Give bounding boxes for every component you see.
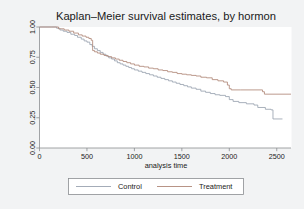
x-tick-label: 0 xyxy=(38,152,42,161)
legend-label-treatment: Treatment xyxy=(199,182,232,191)
legend-label-control: Control xyxy=(118,182,142,191)
y-tick-label: 0.75 xyxy=(28,50,37,64)
y-tick-label: 0.00 xyxy=(28,141,37,155)
y-tick-label: 0.50 xyxy=(28,81,37,95)
chart-figure: Kaplan–Meier survival estimates, by horm… xyxy=(0,0,304,209)
y-tick-label: 1.00 xyxy=(28,20,37,34)
x-tick-label: 1000 xyxy=(126,152,142,161)
x-tick-label: 2000 xyxy=(221,152,237,161)
chart-legend: Control Treatment xyxy=(69,179,244,195)
plot-area-background xyxy=(40,27,292,148)
y-tick-label: 0.25 xyxy=(28,111,37,125)
chart-title: Kaplan–Meier survival estimates, by horm… xyxy=(56,10,276,22)
kaplan-meier-survival-plot: Kaplan–Meier survival estimates, by horm… xyxy=(0,0,304,209)
x-tick-label: 2500 xyxy=(269,152,285,161)
x-tick-label: 500 xyxy=(81,152,93,161)
x-axis-title: analysis time xyxy=(145,161,188,170)
x-tick-label: 1500 xyxy=(174,152,190,161)
